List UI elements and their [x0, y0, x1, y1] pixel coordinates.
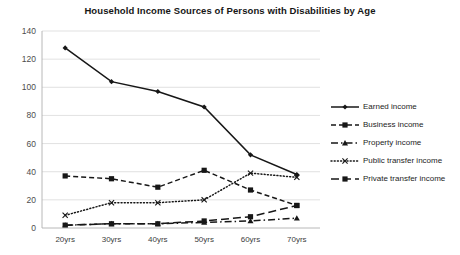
data-series-group — [62, 45, 300, 228]
y-axis-tick-label: 40 — [27, 167, 37, 177]
data-point-marker — [155, 221, 160, 226]
x-axis-tick-label: 70yrs — [287, 235, 307, 244]
legend-swatch-x-icon — [330, 155, 360, 167]
x-axis-tick-labels: 20yrs30yrs40yrs50yrs60yrs70yrs — [55, 235, 306, 244]
legend-item-business-income[interactable]: Business income — [330, 116, 458, 134]
legend-item-public-transfer-income[interactable]: Public transfer income — [330, 152, 458, 170]
series-line — [65, 205, 297, 225]
data-point-marker — [155, 89, 160, 94]
y-axis-tick-label: 80 — [27, 110, 37, 120]
data-series-earned-income — [63, 45, 300, 177]
y-axis-tick-label: 100 — [22, 82, 36, 92]
data-series-property-income — [62, 215, 300, 227]
y-axis-tick-label: 20 — [27, 195, 37, 205]
legend-swatch-square-icon — [330, 173, 360, 185]
data-point-marker — [109, 176, 114, 181]
x-axis-tick-label: 30yrs — [102, 235, 122, 244]
data-point-marker — [294, 203, 299, 208]
series-line — [65, 48, 297, 175]
chart-container: Household Income Sources of Persons with… — [0, 0, 460, 255]
series-line — [65, 173, 297, 215]
data-point-marker — [63, 223, 68, 228]
x-axis-tick-label: 20yrs — [55, 235, 75, 244]
x-axis-tick-label: 60yrs — [241, 235, 261, 244]
legend-item-label: Business income — [363, 121, 423, 129]
legend-item-private-transfer-income[interactable]: Private transfer income — [330, 170, 458, 188]
legend-swatch-triangle-icon — [330, 137, 360, 149]
y-axis-tick-label: 0 — [31, 223, 36, 233]
legend-swatch-diamond-icon — [330, 101, 360, 113]
data-point-marker — [248, 214, 253, 219]
chart-legend: Earned incomeBusiness incomeProperty inc… — [330, 98, 458, 188]
legend-item-label: Private transfer income — [363, 175, 445, 183]
x-axis-tick-label: 40yrs — [148, 235, 168, 244]
data-point-marker — [63, 213, 68, 218]
data-point-marker — [294, 215, 300, 220]
legend-item-label: Earned income — [363, 103, 417, 111]
data-point-marker — [155, 185, 160, 190]
data-point-marker — [109, 221, 114, 226]
legend-item-earned-income[interactable]: Earned income — [330, 98, 458, 116]
data-point-marker — [342, 176, 347, 181]
y-axis-tick-label: 60 — [27, 139, 37, 149]
data-point-marker — [63, 173, 68, 178]
legend-item-property-income[interactable]: Property income — [330, 134, 458, 152]
data-point-marker — [294, 172, 299, 177]
data-point-marker — [342, 104, 347, 109]
data-point-marker — [202, 168, 207, 173]
gridlines-group — [42, 31, 320, 200]
legend-item-label: Public transfer income — [363, 157, 442, 165]
y-axis-tick-label: 140 — [22, 26, 36, 36]
x-axis-tick-label: 50yrs — [194, 235, 214, 244]
data-point-marker — [248, 187, 253, 192]
legend-item-label: Property income — [363, 139, 421, 147]
data-point-marker — [342, 122, 347, 127]
legend-swatch-square-icon — [330, 119, 360, 131]
y-axis-tick-labels: 020406080100120140 — [22, 26, 36, 233]
y-axis-tick-label: 120 — [22, 54, 36, 64]
data-point-marker — [202, 218, 207, 223]
